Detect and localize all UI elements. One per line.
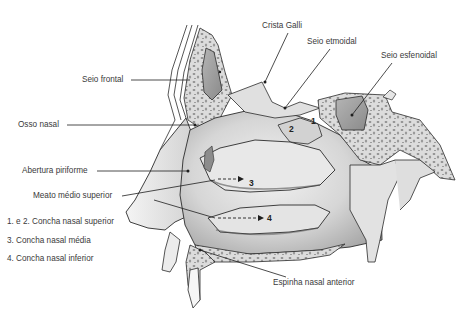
upper-lip: [162, 232, 180, 272]
label-abertura-piriforme: Abertura piriforme: [22, 167, 88, 175]
label-espinha-nasal-anterior: Espinha nasal anterior: [273, 279, 354, 287]
label-seio-esfenoidal: Seio esfenoidal: [381, 52, 437, 60]
nasal-anatomy-diagram: Crista Galli Seio etmoidal Seio esfenoid…: [0, 0, 468, 319]
pterygoid-plate: [350, 160, 400, 262]
incisor-tooth: [188, 268, 200, 308]
marker-3: 3: [249, 179, 254, 188]
label-meato-medio-superior: Meato médio superior: [33, 192, 112, 200]
sphenoid-sinus: [336, 96, 368, 130]
legend-item-2: 3. Concha nasal média: [7, 237, 91, 245]
label-crista-galli: Crista Galli: [262, 22, 302, 30]
marker-1: 1: [311, 117, 316, 126]
legend-item-1: 1. e 2. Concha nasal superior: [7, 218, 114, 226]
legend-item-3: 4. Concha nasal inferior: [7, 255, 93, 263]
anatomy-illustration: [0, 0, 468, 319]
label-seio-frontal: Seio frontal: [82, 76, 123, 84]
marker-4: 4: [267, 214, 272, 223]
label-osso-nasal: Osso nasal: [18, 121, 59, 129]
label-seio-etmoidal: Seio etmoidal: [307, 38, 357, 46]
marker-2: 2: [289, 125, 294, 134]
